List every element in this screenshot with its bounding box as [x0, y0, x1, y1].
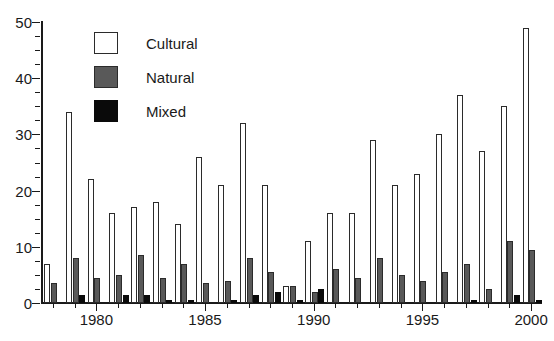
x-tick-major	[531, 304, 532, 311]
x-tick-minor	[488, 304, 489, 308]
bar-cultural-1985	[196, 157, 202, 303]
legend-item-mixed: Mixed	[94, 94, 198, 128]
legend-label-cultural: Cultural	[146, 36, 198, 51]
bar-cultural-1991	[327, 213, 333, 303]
bar-mixed-1979	[79, 295, 85, 303]
x-tick-minor	[379, 304, 380, 308]
y-tick-minor	[35, 289, 40, 290]
y-tick-minor	[35, 205, 40, 206]
bar-natural-1995	[420, 281, 426, 303]
y-tick-minor	[35, 120, 40, 121]
bar-natural-1979	[73, 258, 79, 303]
chart-legend: Cultural Natural Mixed	[94, 26, 198, 128]
y-tick-minor	[35, 148, 40, 149]
mixed-swatch-icon	[94, 100, 118, 122]
bar-cultural-1992	[349, 213, 355, 303]
bar-natural-1992	[355, 278, 361, 303]
bar-natural-1989	[290, 286, 296, 303]
legend-item-natural: Natural	[94, 60, 198, 94]
y-tick-label: 40	[2, 71, 32, 86]
bar-mixed-2000	[536, 300, 542, 303]
y-tick-minor	[35, 219, 40, 220]
bar-cultural-1990	[305, 241, 311, 303]
y-tick-minor	[35, 92, 40, 93]
bar-natural-1983	[160, 278, 166, 303]
x-tick-minor	[466, 304, 467, 308]
bar-natural-1981	[116, 275, 122, 303]
y-tick-label: 10	[2, 239, 32, 254]
x-tick-minor	[335, 304, 336, 308]
bar-natural-1994	[399, 275, 405, 303]
bar-natural-1985	[203, 283, 209, 303]
x-tick-minor	[227, 304, 228, 308]
y-tick-major	[32, 303, 40, 304]
bar-natural-1984	[181, 264, 187, 303]
bar-natural-2000	[529, 250, 535, 303]
bar-natural-1993	[377, 258, 383, 303]
bar-cultural-1993	[370, 140, 376, 303]
bar-natural-1998	[486, 289, 492, 303]
y-tick-label: 20	[2, 183, 32, 198]
bar-mixed-1986	[231, 300, 237, 303]
x-axis-ticks	[42, 304, 542, 312]
bar-cultural-1983	[153, 202, 159, 303]
bar-cultural-1989	[283, 286, 289, 303]
x-tick-minor	[292, 304, 293, 308]
x-tick-minor	[118, 304, 119, 308]
bar-cultural-1979	[66, 112, 72, 303]
y-tick-label: 50	[2, 15, 32, 30]
y-tick-major	[32, 78, 40, 79]
x-tick-minor	[183, 304, 184, 308]
bar-natural-1996	[442, 272, 448, 303]
x-tick-label: 1985	[188, 312, 221, 327]
y-tick-minor	[35, 177, 40, 178]
natural-swatch-icon	[94, 66, 118, 88]
x-tick-major	[422, 304, 423, 311]
y-tick-minor	[35, 233, 40, 234]
x-tick-label: 1995	[406, 312, 439, 327]
bar-mixed-1983	[166, 300, 172, 303]
bar-cultural-1980	[88, 179, 94, 303]
bar-cultural-1988	[262, 185, 268, 303]
y-tick-minor	[35, 36, 40, 37]
y-tick-label: 0	[2, 296, 32, 311]
bar-mixed-1989	[297, 300, 303, 303]
bar-cultural-1994	[392, 185, 398, 303]
bar-mixed-1982	[144, 295, 150, 303]
bar-cultural-1978	[44, 264, 50, 303]
bar-mixed-1997	[471, 300, 477, 303]
bar-cultural-1995	[414, 174, 420, 303]
bar-cultural-1996	[436, 134, 442, 303]
x-tick-minor	[53, 304, 54, 308]
bar-natural-1986	[225, 281, 231, 303]
bar-natural-1978	[51, 283, 57, 303]
y-tick-major	[32, 191, 40, 192]
x-tick-label: 1980	[80, 312, 113, 327]
y-tick-major	[32, 134, 40, 135]
y-tick-minor	[35, 163, 40, 164]
y-tick-minor	[35, 64, 40, 65]
bar-cultural-2000	[523, 28, 529, 303]
x-tick-label: 2000	[514, 312, 547, 327]
bar-natural-1982	[138, 255, 144, 303]
y-tick-minor	[35, 50, 40, 51]
legend-label-natural: Natural	[146, 70, 194, 85]
bar-natural-1987	[247, 258, 253, 303]
bar-natural-1980	[94, 278, 100, 303]
y-axis-labels: 01020304050	[0, 22, 32, 303]
bar-cultural-1987	[240, 123, 246, 303]
x-tick-label: 1990	[297, 312, 330, 327]
bar-natural-1990	[312, 292, 318, 303]
x-tick-minor	[140, 304, 141, 308]
x-tick-minor	[162, 304, 163, 308]
legend-item-cultural: Cultural	[94, 26, 198, 60]
bar-natural-1988	[268, 272, 274, 303]
x-tick-minor	[249, 304, 250, 308]
y-tick-minor	[35, 261, 40, 262]
y-tick-label: 30	[2, 127, 32, 142]
x-tick-minor	[401, 304, 402, 308]
x-tick-minor	[75, 304, 76, 308]
x-tick-minor	[444, 304, 445, 308]
bar-cultural-1981	[109, 213, 115, 303]
bar-cultural-1998	[479, 151, 485, 303]
